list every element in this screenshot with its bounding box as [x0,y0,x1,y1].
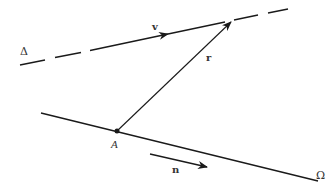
vector-v-arrow [90,34,168,51]
line-omega [41,113,318,181]
label-v: v [151,21,159,32]
line-delta [20,9,288,65]
point-a-dot [115,129,120,134]
label-delta: Δ [20,45,28,58]
label-a: A [110,138,118,150]
label-omega: Ω [316,169,325,182]
label-r: r [206,52,212,63]
label-n: n [172,164,180,175]
vector-r-arrow [117,22,231,131]
geometry-diagram: Δ v r A n Ω [0,0,336,189]
